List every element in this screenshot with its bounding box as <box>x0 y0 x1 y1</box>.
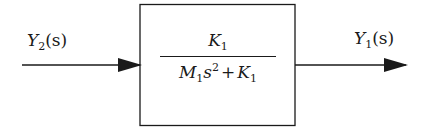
numerator: K1 <box>160 32 276 56</box>
transfer-function: K1 M1s2+K1 <box>160 32 276 84</box>
output-label: Y1(s) <box>354 30 394 50</box>
input-label: Y2(s) <box>27 32 67 52</box>
denominator: M1s2+K1 <box>160 62 276 84</box>
fraction-bar <box>160 56 276 57</box>
